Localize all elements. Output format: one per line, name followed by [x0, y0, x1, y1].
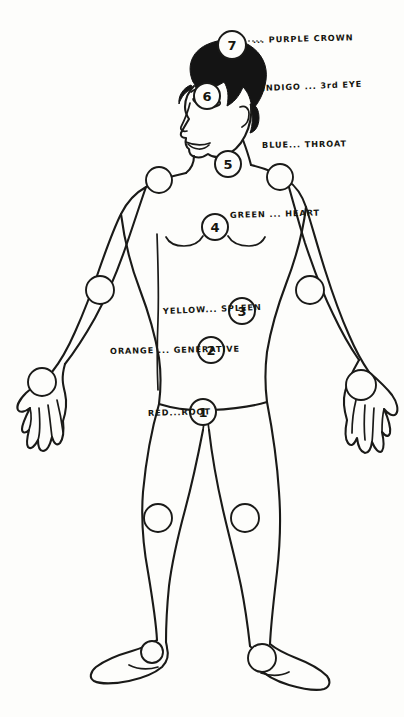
- left-hand-finger-3: [48, 405, 52, 437]
- left-foot-arch: [129, 665, 158, 669]
- chakra-6-3rd-eye[interactable]: 6: [194, 83, 220, 109]
- neck-left: [186, 156, 194, 173]
- abdomen-center-line: [157, 234, 158, 390]
- joint-circle-right-knee: [231, 504, 259, 532]
- chakra-number-4: 4: [210, 220, 219, 235]
- chakra-4-heart[interactable]: 4: [202, 214, 228, 240]
- chakra-7-crown[interactable]: 7: [218, 31, 246, 59]
- joint-circle-right-elbow: [296, 276, 324, 304]
- joint-circle-left-ankle: [141, 641, 163, 663]
- right-hand-finger-3: [364, 405, 365, 440]
- chakra-5-throat[interactable]: 5: [215, 151, 241, 177]
- joint-circle-left-hand: [28, 368, 56, 396]
- joint-circle-right-shoulder: [267, 164, 293, 190]
- torso-left-outline: [52, 173, 186, 372]
- neck-right: [243, 140, 251, 165]
- pectoral-line-right: [228, 236, 265, 246]
- joint-circle-right-hand: [346, 370, 376, 400]
- joint-circle-right-ankle: [248, 644, 276, 672]
- body-figure-svg: 7654321: [0, 0, 404, 717]
- waist-right: [266, 207, 307, 402]
- left-hand-finger-4: [57, 400, 63, 432]
- ear: [240, 106, 249, 127]
- joint-circle-left-elbow: [86, 276, 114, 304]
- chakra-number-5: 5: [223, 157, 232, 172]
- chakra-label-5: BLUE... THROAT: [262, 139, 347, 149]
- chakra-number-7: 7: [227, 38, 236, 53]
- right-leg-inner: [209, 430, 250, 646]
- pectoral-line: [166, 236, 203, 246]
- diagram-canvas: 7654321 ... PURPLE CROWNINDIGO ... 3rd E…: [0, 0, 404, 717]
- right-hand-finger-4: [352, 400, 356, 433]
- left-hand-finger-2: [38, 408, 40, 440]
- chakra-label-4: GREEN ... HEART: [230, 208, 320, 219]
- left-leg-inner: [166, 430, 203, 642]
- chakra-label-1: RED...ROOT: [148, 407, 211, 417]
- right-hand-finger-1: [382, 409, 384, 432]
- chakra-label-7: ... PURPLE CROWN: [253, 33, 354, 44]
- joint-circle-left-knee: [144, 504, 172, 532]
- chakra-label-2: ORANGE ... GENERATIVE: [110, 345, 240, 356]
- joint-circle-left-shoulder: [146, 167, 172, 193]
- right-hand-finger-2: [372, 408, 374, 442]
- right-leg-outer: [267, 402, 280, 644]
- chakra-number-6: 6: [202, 89, 211, 104]
